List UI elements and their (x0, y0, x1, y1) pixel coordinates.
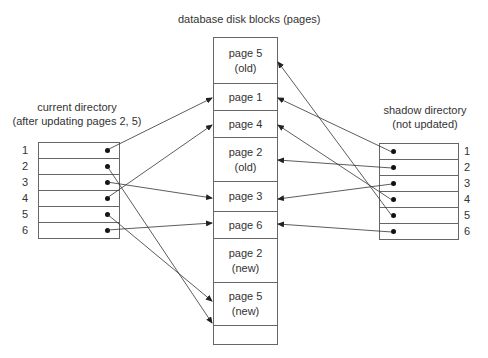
pointer-arrows (0, 0, 488, 358)
